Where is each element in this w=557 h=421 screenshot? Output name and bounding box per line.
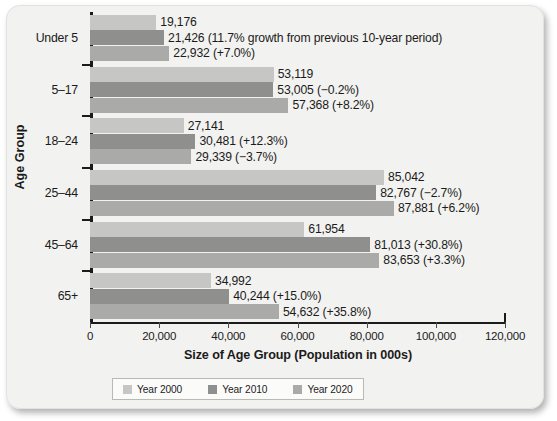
x-axis-tick-label: 0 xyxy=(87,330,93,342)
y-axis-tick xyxy=(82,115,90,117)
y-axis-tick xyxy=(82,64,90,66)
bar-value-label: 82,767 (−2.7%) xyxy=(380,186,462,200)
x-axis-tick xyxy=(436,322,437,328)
y-axis-tick xyxy=(82,219,90,221)
bar-value-label: 53,119 xyxy=(278,67,313,81)
bar xyxy=(90,201,394,216)
y-axis-category-label: 5–17 xyxy=(51,83,78,97)
bar-value-label: 22,932 (+7.0%) xyxy=(173,46,255,60)
bar-value-label: 19,176 xyxy=(160,15,196,29)
bar xyxy=(90,237,370,252)
y-axis-title: Age Group xyxy=(13,97,27,217)
bar xyxy=(90,67,274,82)
legend-item: Year 2020 xyxy=(293,384,352,395)
legend-label: Year 2010 xyxy=(222,384,267,395)
bar-value-label: 85,042 xyxy=(388,170,424,184)
bar-value-label: 81,013 (+30.8%) xyxy=(374,238,462,252)
bar xyxy=(90,82,273,97)
legend-item: Year 2010 xyxy=(208,384,267,395)
x-axis-tick-label: 120,000 xyxy=(485,330,525,342)
x-axis-tick xyxy=(228,322,229,328)
bar xyxy=(90,30,164,45)
bar-value-label: 54,632 (+35.8%) xyxy=(283,305,371,319)
y-axis-category-label: 65+ xyxy=(58,289,78,303)
bar xyxy=(90,46,169,61)
legend-label: Year 2020 xyxy=(307,384,352,395)
x-axis-tick-label: 40,000 xyxy=(211,330,245,342)
legend-swatch-icon xyxy=(123,385,132,394)
bar xyxy=(90,185,376,200)
chart-page: Under 55–1718–2425–4445–6465+ 19,17621,4… xyxy=(0,0,557,421)
bar-value-label: 34,992 xyxy=(215,274,251,288)
bar xyxy=(90,222,304,237)
x-axis-tick xyxy=(505,322,506,328)
bar xyxy=(90,253,379,268)
x-axis-tick xyxy=(159,322,160,328)
bar xyxy=(90,273,211,288)
x-axis-tick xyxy=(90,322,91,328)
bar-value-label: 21,426 (11.7% growth from previous 10-ye… xyxy=(168,31,442,45)
y-axis-category-label: 25–44 xyxy=(45,186,78,200)
y-axis-tick xyxy=(82,270,90,272)
x-axis-tick-label: 80,000 xyxy=(350,330,384,342)
bar xyxy=(90,15,156,30)
x-axis-tick xyxy=(367,322,368,328)
legend-label: Year 2000 xyxy=(137,384,182,395)
plot-area: 19,17621,426 (11.7% growth from previous… xyxy=(90,12,505,322)
bar-value-label: 57,368 (+8.2%) xyxy=(292,98,374,112)
legend-swatch-icon xyxy=(293,385,302,394)
bar xyxy=(90,118,184,133)
y-axis-category-label: Under 5 xyxy=(36,31,78,45)
bar-value-label: 87,881 (+6.2%) xyxy=(398,201,480,215)
bar-value-label: 29,339 (−3.7%) xyxy=(195,150,277,164)
x-axis-tick xyxy=(298,322,299,328)
x-axis-tick-label: 20,000 xyxy=(142,330,176,342)
bar xyxy=(90,98,288,113)
bar xyxy=(90,134,195,149)
bar-value-label: 40,244 (+15.0%) xyxy=(233,289,321,303)
y-axis-tick xyxy=(82,167,90,169)
bar xyxy=(90,304,279,319)
y-axis-category-label: 18–24 xyxy=(45,134,78,148)
bar-value-label: 30,481 (+12.3%) xyxy=(199,134,287,148)
bar xyxy=(90,170,384,185)
legend-item: Year 2000 xyxy=(123,384,182,395)
x-axis-title: Size of Age Group (Population in 000s) xyxy=(90,348,506,362)
bar-value-label: 27,141 xyxy=(188,119,224,133)
y-axis-category-label: 45–64 xyxy=(45,238,78,252)
chart-legend: Year 2000Year 2010Year 2020 xyxy=(112,378,364,400)
bar xyxy=(90,149,191,164)
bar-value-label: 61,954 xyxy=(308,222,344,236)
bar xyxy=(90,289,229,304)
bar-value-label: 53,005 (−0.2%) xyxy=(277,83,359,97)
legend-swatch-icon xyxy=(208,385,217,394)
x-axis-tick-label: 100,000 xyxy=(416,330,456,342)
bar-value-label: 83,653 (+3.3%) xyxy=(383,253,465,267)
x-axis-tick-label: 60,000 xyxy=(281,330,315,342)
y-axis-labels: Under 55–1718–2425–4445–6465+ xyxy=(0,0,78,421)
